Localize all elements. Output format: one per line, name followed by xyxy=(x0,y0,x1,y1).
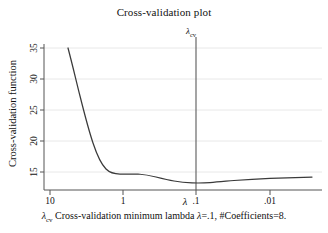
footnote-text-2: =.1, #Coefficients=8. xyxy=(201,210,286,221)
x-tick-label-point01: .01 xyxy=(250,196,290,206)
x-tick-label-1: 1 xyxy=(103,196,143,206)
y-axis xyxy=(40,44,44,190)
cv-function-curve xyxy=(68,48,312,183)
x-tick-label-10: 10 xyxy=(30,196,70,206)
y-tick-label-15: 15 xyxy=(29,162,39,182)
gridlines xyxy=(44,48,322,172)
y-tick-label-30: 30 xyxy=(29,69,39,89)
y-tick-label-35: 35 xyxy=(29,38,39,58)
cv-minimum-annotation-label: λcv xyxy=(186,26,196,38)
x-axis xyxy=(44,190,322,195)
cross-validation-plot-figure: Cross-validation plot Cross-valida xyxy=(0,0,328,233)
figure-footnote: λcv Cross-validation minimum lambda λ=.1… xyxy=(0,210,328,224)
lambda-subscript: cv xyxy=(190,31,196,38)
x-axis-title: λ xyxy=(165,196,205,207)
y-tick-label-20: 20 xyxy=(29,131,39,151)
y-tick-label-25: 25 xyxy=(29,100,39,120)
footnote-lambda-subscript: cv xyxy=(46,216,53,224)
y-axis-title: Cross-validation function xyxy=(7,39,18,189)
footnote-text-1: Cross-validation minimum lambda xyxy=(53,210,197,221)
